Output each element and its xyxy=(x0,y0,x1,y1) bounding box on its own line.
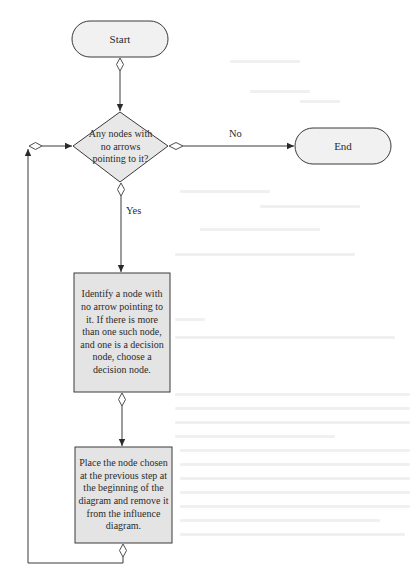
connector-diamond-icon xyxy=(29,143,42,150)
connector-diamond-icon xyxy=(118,183,125,196)
edge-identify-to-place xyxy=(119,393,126,446)
connector-diamond-icon xyxy=(169,143,183,150)
edge-label-yes: Yes xyxy=(126,205,141,216)
connector-diamond-icon xyxy=(119,393,126,406)
decision-label: Any nodes with no arrows pointing to it? xyxy=(88,120,153,174)
start-label: Start xyxy=(72,21,168,57)
edge-label-no: No xyxy=(229,128,242,139)
edge-decision-to-end xyxy=(169,143,294,150)
edge-start-to-decision xyxy=(117,58,124,111)
edge-decision-to-identify xyxy=(118,183,125,272)
flowchart: Start Any nodes with no arrows pointing … xyxy=(0,0,417,579)
flowchart-shapes xyxy=(0,0,417,579)
connector-diamond-icon xyxy=(120,544,127,557)
end-label: End xyxy=(295,128,391,164)
identify-label: Identify a node with no arrow pointing t… xyxy=(74,273,170,392)
place-label: Place the node chosen at the previous st… xyxy=(75,447,172,543)
connector-diamond-icon xyxy=(117,58,124,71)
